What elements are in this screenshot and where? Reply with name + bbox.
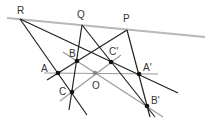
point-a-prime (137, 72, 142, 77)
point-o (93, 71, 98, 76)
line-q-b-c (69, 25, 82, 110)
label-b: B (69, 48, 76, 59)
point-b (75, 59, 80, 64)
point-c-prime (109, 60, 114, 65)
label-c-prime: C' (109, 46, 118, 57)
label-p: P (123, 13, 130, 24)
line-r-a-c (20, 19, 87, 115)
point-c (70, 90, 75, 95)
desargues-diagram: R Q P B C' A O A' C B' (0, 0, 210, 132)
label-b-prime: B' (151, 95, 160, 106)
label-a-prime: A' (143, 62, 152, 73)
label-a: A (41, 63, 48, 74)
label-r: R (17, 5, 24, 16)
point-a (56, 71, 61, 76)
label-o: O (92, 80, 100, 91)
perspective-axis-line (7, 18, 205, 37)
point-b-prime (145, 104, 150, 109)
label-c: C (59, 86, 66, 97)
label-q: Q (77, 9, 85, 20)
